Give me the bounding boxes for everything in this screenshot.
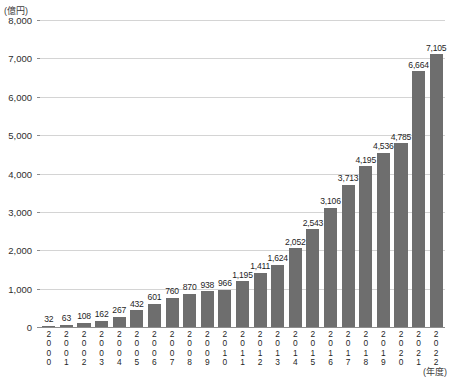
bar-value-label: 3,713 — [338, 173, 359, 183]
bar-slot: 63 — [60, 20, 73, 327]
bar[interactable] — [95, 321, 108, 327]
x-tick-label: 2014 — [287, 330, 305, 368]
bar-value-label: 162 — [95, 309, 109, 319]
x-tick-label: 2000 — [40, 330, 58, 368]
y-tick-label: 7,000 — [0, 53, 32, 64]
x-tick-label: 2010 — [216, 330, 234, 368]
bar[interactable] — [324, 208, 337, 327]
bar-slot: 7,105 — [430, 20, 443, 327]
bar-value-label: 3,106 — [320, 196, 341, 206]
bar-value-label: 6,664 — [408, 60, 429, 70]
bar-value-label: 2,543 — [303, 218, 324, 228]
bar[interactable] — [236, 281, 249, 327]
bar-series: 32631081622674326017608709389661,1951,41… — [40, 20, 445, 327]
bar-slot: 4,195 — [359, 20, 372, 327]
bar-value-label: 63 — [62, 313, 71, 323]
bar-slot: 938 — [201, 20, 214, 327]
bar-slot: 432 — [130, 20, 143, 327]
bar[interactable] — [271, 265, 284, 327]
bar-value-label: 4,785 — [391, 132, 412, 142]
x-tick-label: 2008 — [181, 330, 199, 368]
bar[interactable] — [377, 153, 390, 327]
bar[interactable] — [130, 310, 143, 327]
bar-value-label: 4,536 — [373, 141, 394, 151]
bar[interactable] — [166, 298, 179, 327]
bar-slot: 108 — [77, 20, 90, 327]
bar[interactable] — [359, 166, 372, 327]
bar-value-label: 938 — [200, 280, 214, 290]
y-tick-label: 5,000 — [0, 130, 32, 141]
bar-value-label: 760 — [165, 286, 179, 296]
bar-value-label: 32 — [44, 314, 53, 324]
axis-baseline — [40, 327, 445, 328]
bar[interactable] — [77, 323, 90, 327]
bar[interactable] — [430, 54, 443, 327]
bar-slot: 601 — [148, 20, 161, 327]
bar-value-label: 4,195 — [355, 155, 376, 165]
x-tick-label: 2022 — [427, 330, 445, 368]
bar[interactable] — [306, 229, 319, 327]
y-tick-label: 4,000 — [0, 168, 32, 179]
bar[interactable] — [254, 273, 267, 327]
x-tick-label: 2004 — [110, 330, 128, 368]
bar-value-label: 601 — [148, 292, 162, 302]
bar[interactable] — [289, 248, 302, 327]
x-tick-label: 2019 — [375, 330, 393, 368]
x-tick-label: 2015 — [304, 330, 322, 368]
bar-chart: (億円) 01,0002,0003,0004,0005,0006,0007,00… — [0, 0, 449, 380]
bar-slot: 870 — [183, 20, 196, 327]
bar-value-label: 267 — [112, 305, 126, 315]
bar[interactable] — [183, 294, 196, 327]
bar-slot: 32 — [42, 20, 55, 327]
bar-slot: 760 — [166, 20, 179, 327]
bar-slot: 3,713 — [342, 20, 355, 327]
bar[interactable] — [113, 317, 126, 327]
bar-value-label: 2,052 — [285, 237, 306, 247]
x-tick-label: 2016 — [322, 330, 340, 368]
plot-area: 01,0002,0003,0004,0005,0006,0007,0008,00… — [40, 20, 445, 327]
x-tick-label: 2017 — [339, 330, 357, 368]
bar[interactable] — [218, 290, 231, 327]
bar-value-label: 7,105 — [426, 43, 447, 53]
bar-slot: 966 — [218, 20, 231, 327]
y-tick-mark — [37, 327, 40, 328]
bar-slot: 2,543 — [306, 20, 319, 327]
bar-slot: 2,052 — [289, 20, 302, 327]
bar[interactable] — [394, 143, 407, 327]
bar[interactable] — [42, 326, 55, 327]
x-axis-unit-label: (年度) — [423, 365, 447, 378]
bar-slot: 6,664 — [412, 20, 425, 327]
bar-slot: 3,106 — [324, 20, 337, 327]
y-tick-label: 0 — [0, 322, 32, 333]
x-tick-label: 2003 — [93, 330, 111, 368]
bar-value-label: 432 — [130, 299, 144, 309]
bar-value-label: 870 — [183, 282, 197, 292]
y-tick-label: 2,000 — [0, 245, 32, 256]
bar-slot: 4,785 — [394, 20, 407, 327]
y-tick-label: 8,000 — [0, 15, 32, 26]
x-tick-label: 2006 — [146, 330, 164, 368]
bar-slot: 1,195 — [236, 20, 249, 327]
x-tick-label: 2002 — [75, 330, 93, 368]
x-tick-label: 2012 — [251, 330, 269, 368]
bar-slot: 162 — [95, 20, 108, 327]
bar[interactable] — [60, 325, 73, 327]
bar[interactable] — [412, 71, 425, 327]
bar[interactable] — [342, 185, 355, 327]
x-tick-label: 2011 — [234, 330, 252, 368]
bar-slot: 1,411 — [254, 20, 267, 327]
y-tick-label: 6,000 — [0, 91, 32, 102]
bar[interactable] — [148, 304, 161, 327]
x-tick-label: 2007 — [163, 330, 181, 368]
x-tick-label: 2018 — [357, 330, 375, 368]
bar-slot: 4,536 — [377, 20, 390, 327]
bar[interactable] — [201, 291, 214, 327]
bar-slot: 1,624 — [271, 20, 284, 327]
bar-value-label: 108 — [77, 311, 91, 321]
x-tick-label: 2005 — [128, 330, 146, 368]
x-tick-label: 2009 — [198, 330, 216, 368]
x-tick-label: 2001 — [58, 330, 76, 368]
bar-slot: 267 — [113, 20, 126, 327]
x-tick-label: 2020 — [392, 330, 410, 368]
y-tick-label: 3,000 — [0, 206, 32, 217]
